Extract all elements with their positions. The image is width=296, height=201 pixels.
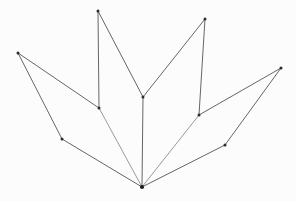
vertex-bend-left: [61, 138, 64, 141]
vertex-notch-center: [142, 96, 145, 99]
vertex-peak-far-right: [280, 67, 283, 70]
vertex-notch-right: [198, 114, 201, 117]
vertex-peak-inner-right: [204, 18, 207, 21]
canvas-background: [0, 0, 296, 201]
vertex-bend-right: [224, 144, 227, 147]
vertex-apex: [140, 185, 144, 189]
vertex-peak-far-left: [17, 52, 20, 55]
vertex-peak-inner-left: [97, 10, 100, 13]
drawing-canvas: Wireframe crown line drawing Hand-drawn …: [0, 0, 296, 201]
wireframe-crown-figure: [0, 0, 296, 201]
vertex-notch-left: [98, 107, 101, 110]
